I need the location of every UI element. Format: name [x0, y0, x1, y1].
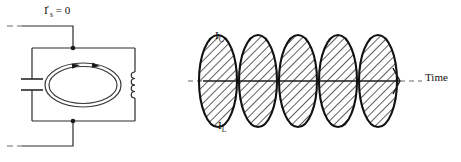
circulating-current-loop — [45, 63, 121, 107]
circuit-diagram — [7, 26, 135, 146]
oscillation-lobe — [279, 35, 317, 127]
current-loop-inner — [49, 67, 117, 104]
oscillation-lobe — [239, 35, 277, 127]
inductor-turn-2 — [131, 79, 135, 86]
figure-canvas — [0, 0, 461, 162]
source-current-label: I′s = 0 — [44, 5, 70, 16]
waveform-diagram — [188, 35, 422, 127]
inductor-turn-3 — [131, 85, 135, 92]
junction-dot-top — [71, 46, 76, 51]
capacitor-current-subscript: C — [219, 35, 224, 44]
junction-dot-bottom — [71, 119, 76, 124]
inductor-symbol — [131, 72, 135, 98]
time-axis-label: Time — [425, 72, 448, 83]
source-current-subscript: s — [50, 10, 53, 19]
inductor-turn-1 — [131, 72, 135, 79]
source-current-prime: ′ — [47, 3, 49, 15]
inductor-current-subscript: L — [222, 125, 227, 134]
top-lead-solid — [22, 26, 73, 48]
current-loop-outer — [45, 63, 121, 107]
oscillation-lobe — [359, 35, 397, 127]
source-current-value: = 0 — [56, 4, 70, 16]
oscillation-lobe — [319, 35, 357, 127]
capacitor-symbol — [21, 79, 43, 90]
inductor-turn-4 — [131, 92, 135, 99]
oscillation-lobe — [199, 35, 237, 127]
figure-root: I′s = 0 IC IL Time — [0, 0, 461, 162]
inductor-current-label: IL — [218, 120, 226, 131]
circuit-loop-rectangle — [32, 48, 135, 121]
bottom-lead-wire — [7, 121, 73, 146]
capacitor-current-label: IC — [215, 30, 224, 41]
bottom-lead-solid — [22, 121, 73, 146]
top-lead-wire — [7, 26, 73, 48]
